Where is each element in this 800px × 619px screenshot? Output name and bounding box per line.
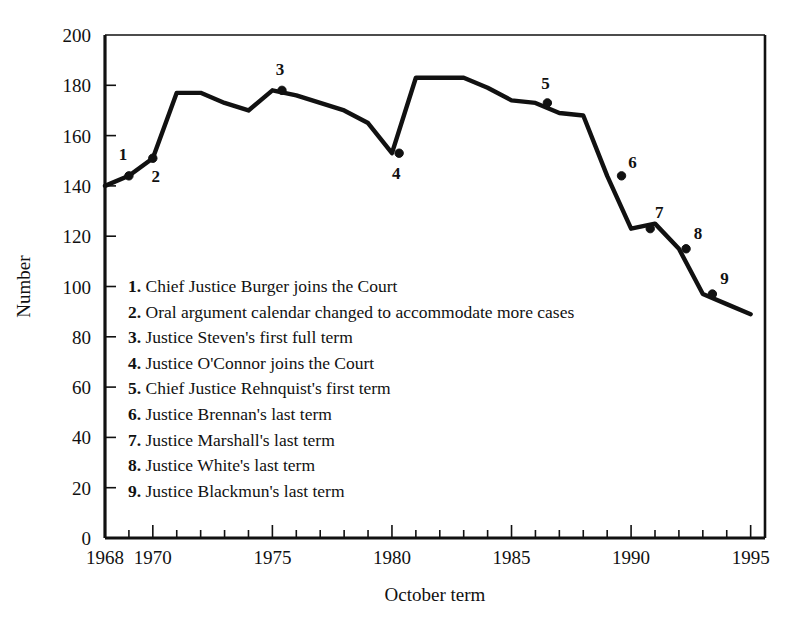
annotation-label-2: 2 [152, 167, 161, 186]
x-tick-label: 1980 [373, 547, 411, 568]
legend-item-text: Justice Steven's first full term [141, 327, 353, 347]
annotation-label-9: 9 [720, 269, 729, 288]
annotation-label-7: 7 [655, 203, 664, 222]
annotation-point-2 [149, 154, 157, 162]
legend-item: 5. Chief Justice Rehnquist's first term [128, 376, 688, 402]
legend-item-number: 5. [128, 378, 141, 398]
legend-item: 6. Justice Brennan's last term [128, 402, 688, 428]
y-tick-label: 180 [63, 75, 92, 96]
annotation-label-3: 3 [276, 60, 285, 79]
chart-figure: 020406080100120140160180200 196819701975… [0, 0, 800, 619]
legend-item-text: Oral argument calendar changed to accomm… [141, 302, 574, 322]
y-tick-label: 120 [63, 226, 92, 247]
legend-item: 1. Chief Justice Burger joins the Court [128, 274, 688, 300]
legend-item-number: 2. [128, 302, 141, 322]
x-tick-label: 1985 [493, 547, 531, 568]
legend-item: 9. Justice Blackmun's last term [128, 479, 688, 505]
legend-item-number: 7. [128, 430, 141, 450]
legend-item: 7. Justice Marshall's last term [128, 428, 688, 454]
annotation-label-6: 6 [628, 153, 637, 172]
y-axis-ticks: 020406080100120140160180200 [63, 25, 117, 549]
x-tick-label: 1975 [253, 547, 291, 568]
annotation-legend: 1. Chief Justice Burger joins the Court2… [128, 274, 688, 504]
annotation-point-6 [617, 172, 625, 180]
y-tick-label: 20 [72, 478, 91, 499]
annotation-point-9 [708, 290, 716, 298]
x-tick-label: 1970 [134, 547, 172, 568]
annotation-label-1: 1 [119, 145, 128, 164]
legend-item-text: Justice White's last term [141, 455, 315, 475]
legend-item-number: 1. [128, 276, 141, 296]
y-tick-label: 200 [63, 25, 92, 46]
legend-item-number: 3. [128, 327, 141, 347]
legend-item-number: 6. [128, 404, 141, 424]
x-axis-ticks: 1968197019751980198519901995 [86, 525, 770, 568]
legend-item-number: 4. [128, 353, 141, 373]
y-axis-title: Number [13, 255, 34, 318]
legend-item-text: Justice Brennan's last term [141, 404, 332, 424]
annotation-point-8 [682, 245, 690, 253]
y-tick-label: 160 [63, 126, 92, 147]
legend-item-text: Chief Justice Rehnquist's first term [141, 378, 391, 398]
annotation-point-7 [646, 224, 654, 232]
legend-item-text: Justice O'Connor joins the Court [141, 353, 374, 373]
legend-item-text: Chief Justice Burger joins the Court [141, 276, 397, 296]
x-tick-label: 1968 [86, 547, 124, 568]
legend-item: 8. Justice White's last term [128, 453, 688, 479]
y-tick-label: 60 [72, 377, 91, 398]
y-tick-label: 100 [63, 277, 92, 298]
legend-item-text: Justice Blackmun's last term [141, 481, 344, 501]
y-tick-label: 40 [72, 427, 91, 448]
annotation-point-4 [395, 149, 403, 157]
legend-item-text: Justice Marshall's last term [141, 430, 335, 450]
x-tick-label: 1990 [612, 547, 650, 568]
annotation-point-5 [543, 99, 551, 107]
legend-item-number: 8. [128, 455, 141, 475]
legend-item-number: 9. [128, 481, 141, 501]
annotation-label-5: 5 [541, 74, 550, 93]
x-axis-title: October term [385, 584, 486, 605]
annotation-point-3 [278, 86, 286, 94]
legend-item: 2. Oral argument calendar changed to acc… [128, 300, 688, 326]
x-tick-label: 1995 [732, 547, 770, 568]
legend-item: 3. Justice Steven's first full term [128, 325, 688, 351]
legend-item: 4. Justice O'Connor joins the Court [128, 351, 688, 377]
annotation-point-1 [125, 172, 133, 180]
y-tick-label: 140 [63, 176, 92, 197]
y-tick-label: 0 [82, 528, 92, 549]
annotation-label-4: 4 [392, 164, 401, 183]
y-tick-label: 80 [72, 327, 91, 348]
annotation-label-8: 8 [694, 224, 703, 243]
